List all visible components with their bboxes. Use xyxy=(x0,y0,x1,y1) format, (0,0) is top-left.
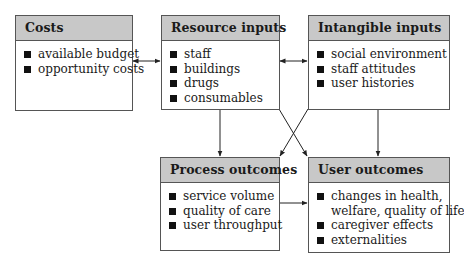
arrow-resource-user xyxy=(279,109,307,156)
process-outcomes-box: Process outcomes service volume quality … xyxy=(160,157,280,251)
square-bullet-icon xyxy=(317,237,324,244)
square-bullet-icon xyxy=(170,66,177,73)
square-bullet-icon xyxy=(170,80,177,87)
resource-inputs-list: staff buildings drugs consumables xyxy=(162,41,279,105)
user-outcomes-box: User outcomes changes in health, welfare… xyxy=(308,157,450,253)
list-item: externalities xyxy=(317,233,449,248)
intangible-inputs-box: Intangible inputs social environment sta… xyxy=(308,15,450,110)
intangible-inputs-list: social environment staff attitudes user … xyxy=(309,41,449,91)
list-item: available budget xyxy=(24,47,132,62)
list-item: drugs xyxy=(170,76,279,91)
list-item: changes in health, xyxy=(317,189,449,204)
square-bullet-icon xyxy=(317,80,324,87)
resource-inputs-box: Resource inputs staff buildings drugs co… xyxy=(161,15,280,110)
process-outcomes-title: Process outcomes xyxy=(161,158,279,183)
square-bullet-icon xyxy=(169,193,176,200)
list-item: user histories xyxy=(317,76,449,91)
list-item: caregiver effects xyxy=(317,218,449,233)
list-item: opportunity costs xyxy=(24,62,132,77)
arrow-intangible-process xyxy=(280,109,308,156)
square-bullet-icon xyxy=(169,208,176,215)
square-bullet-icon xyxy=(169,222,176,229)
square-bullet-icon xyxy=(24,66,31,73)
costs-box: Costs available budget opportunity costs xyxy=(15,15,133,111)
list-item: user throughput xyxy=(169,218,279,233)
square-bullet-icon xyxy=(170,95,177,102)
square-bullet-icon xyxy=(317,51,324,58)
intangible-inputs-title: Intangible inputs xyxy=(309,16,449,41)
costs-title: Costs xyxy=(16,16,132,41)
user-outcomes-title: User outcomes xyxy=(309,158,449,183)
list-item: service volume xyxy=(169,189,279,204)
process-outcomes-list: service volume quality of care user thro… xyxy=(161,183,279,233)
list-item: buildings xyxy=(170,62,279,77)
square-bullet-icon xyxy=(317,66,324,73)
square-bullet-icon xyxy=(317,193,324,200)
list-item: social environment xyxy=(317,47,449,62)
list-item: staff xyxy=(170,47,279,62)
user-outcomes-list: changes in health, welfare, quality of l… xyxy=(309,183,449,247)
list-item: quality of care xyxy=(169,204,279,219)
list-item: consumables xyxy=(170,91,279,106)
list-item: staff attitudes xyxy=(317,62,449,77)
list-item-continuation: welfare, quality of life xyxy=(317,204,449,219)
square-bullet-icon xyxy=(170,51,177,58)
square-bullet-icon xyxy=(24,51,31,58)
resource-inputs-title: Resource inputs xyxy=(162,16,279,41)
costs-list: available budget opportunity costs xyxy=(16,41,132,76)
square-bullet-icon xyxy=(317,222,324,229)
